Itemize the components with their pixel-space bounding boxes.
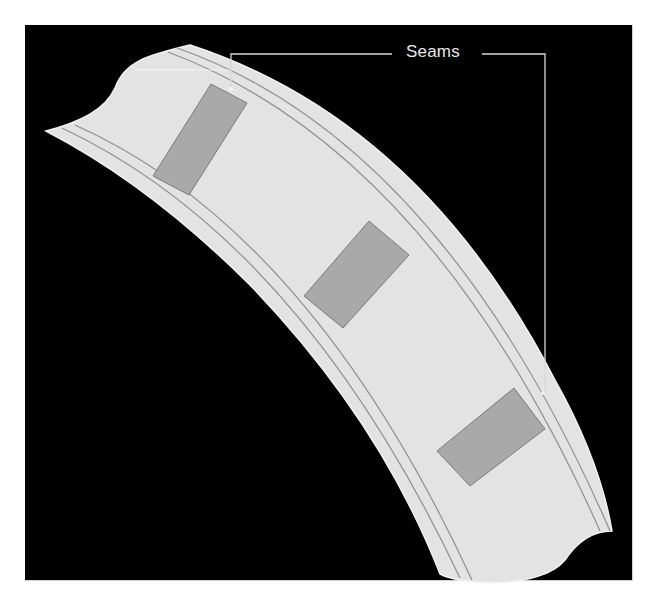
- seam-marker-2: [541, 391, 545, 395]
- seams-callout-label: Seams: [404, 42, 462, 62]
- fabric-band-diagram: [0, 0, 652, 601]
- seam-marker-1: [229, 87, 233, 91]
